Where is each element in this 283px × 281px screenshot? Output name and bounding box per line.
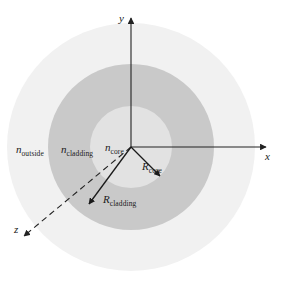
label-n-core-sub: core bbox=[111, 147, 124, 156]
label-n-outside: noutside bbox=[16, 140, 44, 156]
label-r-core-var: R bbox=[142, 160, 149, 172]
label-n-outside-var: n bbox=[16, 143, 22, 155]
axis-label-x: x bbox=[265, 151, 270, 162]
label-n-outside-sub: outside bbox=[22, 149, 44, 158]
label-n-cladding: ncladding bbox=[61, 140, 93, 156]
label-n-cladding-var: n bbox=[61, 143, 67, 155]
axis-label-y: y bbox=[119, 13, 124, 24]
label-r-core: Rcore bbox=[142, 157, 162, 173]
label-r-core-sub: core bbox=[149, 166, 162, 175]
label-r-cladding-sub: cladding bbox=[110, 199, 137, 208]
label-n-cladding-sub: cladding bbox=[67, 149, 94, 158]
label-r-cladding-var: R bbox=[103, 193, 110, 205]
axis-label-z: z bbox=[14, 224, 18, 235]
label-n-core-var: n bbox=[105, 141, 111, 153]
label-n-core: ncore bbox=[105, 138, 124, 154]
fiber-cross-section-figure: noutside ncladding ncore Rcore Rcladding… bbox=[0, 0, 283, 281]
label-r-cladding: Rcladding bbox=[103, 190, 136, 206]
